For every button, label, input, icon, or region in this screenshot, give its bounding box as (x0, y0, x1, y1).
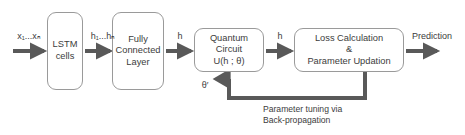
node-lstm-cells-line-2: cells (56, 51, 75, 63)
node-quantum-circuit-line-1: Quantum (210, 33, 248, 45)
node-loss-calculation[interactable]: Loss Calculation & Parameter Updation (294, 28, 404, 72)
hidden-states-label: h₁...hₙ (86, 31, 120, 41)
theta-prime-label: θ′ (196, 80, 214, 90)
node-loss-calculation-line-2: & (346, 44, 352, 56)
node-lstm-cells[interactable]: LSTM cells (47, 12, 83, 90)
node-quantum-circuit-line-2: Circuit (216, 44, 242, 56)
node-fully-connected-layer-line-3: Layer (126, 57, 149, 69)
node-fully-connected-layer[interactable]: Fully Connected Layer (112, 12, 164, 90)
node-quantum-circuit[interactable]: Quantum Circuit U(h ; θ) (194, 28, 264, 72)
node-loss-calculation-line-3: Parameter Updation (307, 56, 390, 68)
feedback-caption-line-1: Parameter tuning via (263, 104, 342, 115)
prediction-label: Prediction (404, 31, 460, 41)
node-fully-connected-layer-line-2: Connected (116, 45, 161, 57)
h-label-quantum-to-loss: h (268, 31, 292, 41)
node-lstm-cells-line-1: LSTM (53, 39, 78, 51)
node-quantum-circuit-formula: U(h ; θ) (214, 56, 245, 68)
node-fully-connected-layer-line-1: Fully (128, 34, 148, 46)
feedback-caption-line-2: Back-propagation (263, 115, 342, 126)
node-loss-calculation-line-1: Loss Calculation (315, 33, 383, 45)
feedback-caption: Parameter tuning via Back-propagation (263, 104, 342, 126)
h-label-fc-to-quantum: h (168, 31, 192, 41)
arrow-feedback-loop (229, 72, 365, 98)
diagram-canvas: LSTM cells Fully Connected Layer Quantum… (0, 0, 465, 135)
input-sequence-label: x₁...xₙ (12, 31, 46, 41)
